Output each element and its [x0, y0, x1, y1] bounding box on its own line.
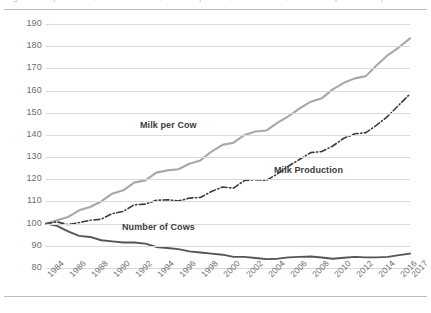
series-lines: [46, 24, 410, 268]
y-axis-tick-label: 170: [26, 62, 42, 72]
plot-area: [46, 24, 410, 268]
y-axis-tick-label: 190: [26, 18, 42, 28]
gridline: [46, 24, 410, 25]
gridline: [46, 224, 410, 225]
chart-figure: Figure. Milk production, number of cows,…: [0, 0, 431, 313]
line-series-milk-per-cow: [46, 38, 410, 223]
series-label-milk-per-cow: Milk per Cow: [140, 120, 197, 130]
gridline: [46, 68, 410, 69]
y-axis-tick-label: 90: [32, 240, 42, 250]
gridline: [46, 135, 410, 136]
y-axis-tick-label: 120: [26, 173, 42, 183]
y-axis-tick-label: 160: [26, 85, 42, 95]
gridline: [46, 113, 410, 114]
y-axis-tick-label: 130: [26, 151, 42, 161]
line-series-number-of-cows: [46, 224, 410, 259]
gridline: [46, 201, 410, 202]
gridline: [46, 157, 410, 158]
gridline: [46, 91, 410, 92]
y-axis-tick-label: 180: [26, 40, 42, 50]
cropped-caption-text: Figure. Milk production, number of cows,…: [6, 0, 384, 2]
cropped-caption-strip: Figure. Milk production, number of cows,…: [0, 0, 431, 8]
gridline: [46, 179, 410, 180]
bottom-divider-rule: [4, 296, 427, 297]
gridline: [46, 246, 410, 247]
top-divider-rule: [4, 9, 427, 10]
gridline: [46, 46, 410, 47]
y-axis-tick-label: 110: [27, 195, 42, 205]
y-axis-tick-label: 100: [26, 218, 42, 228]
y-axis-tick-label: 140: [26, 129, 42, 139]
y-axis-tick-label: 150: [26, 107, 42, 117]
series-label-number-of-cows: Number of Cows: [122, 222, 195, 232]
y-axis-tick-label: 80: [32, 262, 42, 272]
series-label-milk-production: Milk Production: [274, 165, 343, 175]
